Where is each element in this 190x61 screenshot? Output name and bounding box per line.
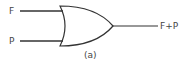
input-label-f: F (9, 6, 14, 16)
input-label-p: P (9, 36, 15, 46)
caption: (a) (84, 50, 97, 60)
output-label: F+P (160, 21, 179, 31)
or-gate-symbol (60, 6, 113, 46)
or-gate-diagram: F P F+P (a) (0, 0, 190, 61)
